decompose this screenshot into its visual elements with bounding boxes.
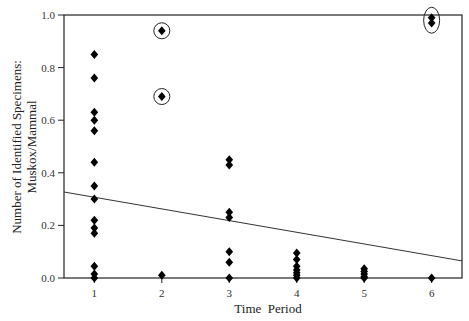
- diamond-marker: [91, 216, 99, 225]
- diamond-marker: [91, 195, 99, 204]
- scatter-chart: 0.00.20.40.60.81.0123456 Time Period Num…: [0, 0, 469, 321]
- diamond-marker: [428, 274, 436, 283]
- x-tick-label: 3: [227, 287, 233, 299]
- x-tick-label: 2: [159, 287, 165, 299]
- diamond-marker: [91, 229, 99, 238]
- x-tick-label: 6: [429, 287, 435, 299]
- diamond-marker: [158, 26, 166, 35]
- y-tick-label: 0.8: [41, 62, 55, 74]
- diamond-marker: [91, 126, 99, 135]
- y-axis-title-line1: Number of Identified Specimens:: [9, 60, 24, 234]
- diamond-marker: [91, 181, 99, 190]
- diamond-marker: [91, 108, 99, 117]
- x-tick-label: 4: [294, 287, 300, 299]
- regression-line: [64, 192, 462, 261]
- diamond-marker: [91, 50, 99, 59]
- y-tick-label: 0.4: [41, 167, 55, 179]
- diamond-marker: [225, 160, 233, 169]
- data-points: [91, 13, 436, 282]
- diamond-marker: [225, 258, 233, 267]
- trendline: [64, 192, 462, 261]
- diamond-marker: [225, 274, 233, 283]
- y-tick-label: 0.0: [41, 272, 55, 284]
- x-axis-title: Time Period: [234, 301, 302, 316]
- y-tick-label: 1.0: [41, 9, 55, 21]
- x-tick-label: 5: [361, 287, 367, 299]
- x-tick-label: 1: [92, 287, 98, 299]
- diamond-marker: [91, 116, 99, 125]
- diamond-marker: [91, 74, 99, 83]
- diamond-marker: [225, 247, 233, 256]
- y-tick-label: 0.2: [41, 219, 55, 231]
- plot-frame: [64, 15, 462, 278]
- diamond-marker: [91, 262, 99, 271]
- y-axis-title-line2: Muskox/Mammal: [24, 100, 39, 194]
- diamond-marker: [428, 18, 436, 27]
- plot-axes: 0.00.20.40.60.81.0123456: [41, 9, 462, 299]
- y-tick-label: 0.6: [41, 114, 55, 126]
- diamond-marker: [158, 92, 166, 101]
- highlight-circles: [154, 7, 440, 104]
- diamond-marker: [91, 158, 99, 167]
